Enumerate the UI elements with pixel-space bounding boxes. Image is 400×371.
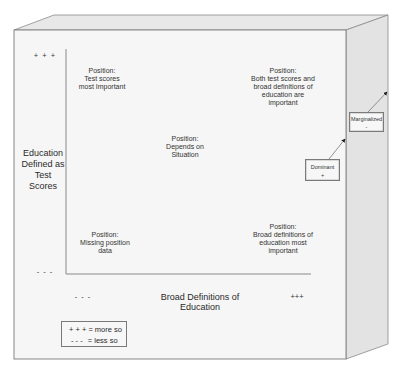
cube-side-face: [346, 15, 388, 359]
dominant-box: Dominant +: [305, 159, 340, 181]
position-line: Position:: [72, 67, 132, 75]
legend-symbol: - - -: [71, 336, 83, 345]
legend-item-less: - - - = less so: [62, 335, 126, 346]
legend-item-more: + + + = more so: [62, 324, 126, 335]
position-line: education most: [243, 239, 323, 247]
position-line: Position:: [75, 231, 135, 239]
y-axis-high-mark: + + +: [30, 52, 60, 61]
marginalized-box: Marginalized -: [349, 112, 384, 132]
position-top-left: Position: Test scores most Important: [72, 67, 132, 91]
legend-symbol: + + +: [69, 325, 86, 334]
position-line: Position:: [243, 67, 323, 75]
position-line: important: [243, 247, 323, 255]
position-line: Position:: [243, 223, 323, 231]
dominant-sign: +: [306, 172, 339, 180]
legend-text: = more so: [88, 325, 122, 334]
dominant-label: Dominant: [306, 164, 339, 172]
legend-text: = less so: [85, 336, 118, 345]
y-axis-title-line: Test: [20, 170, 66, 181]
marginalized-label: Marginalized: [350, 116, 383, 124]
position-line: Test scores: [72, 75, 132, 83]
position-line: Situation: [155, 151, 215, 159]
y-axis-title-line: Defined as: [20, 159, 66, 170]
position-line: important: [243, 99, 323, 107]
position-line: Depends on: [155, 143, 215, 151]
y-axis-title-line: Scores: [20, 181, 66, 192]
position-top-right: Position: Both test scores and broad def…: [243, 67, 323, 107]
position-line: most Important: [72, 83, 132, 91]
x-axis-high-mark: +++: [282, 293, 312, 302]
x-axis-low-mark: - - -: [68, 293, 98, 302]
position-line: broad definitions of: [243, 83, 323, 91]
cube-top-face: [14, 15, 388, 30]
position-bottom-right: Position: Broad definitions of education…: [243, 223, 323, 255]
position-line: Position:: [155, 135, 215, 143]
y-axis-low-mark: - - -: [30, 268, 60, 277]
position-line: Both test scores and: [243, 75, 323, 83]
x-axis-title: Broad Definitions of Education: [140, 292, 260, 313]
marginalized-sign: -: [350, 124, 383, 132]
position-line: Missing position: [75, 239, 135, 247]
position-line: education are: [243, 91, 323, 99]
y-axis-title-line: Education: [20, 148, 66, 159]
y-axis-title: Education Defined as Test Scores: [20, 148, 66, 192]
legend: + + + = more so - - - = less so: [61, 321, 127, 347]
position-line: data: [75, 247, 135, 255]
position-line: Broad definitions of: [243, 231, 323, 239]
position-center: Position: Depends on Situation: [155, 135, 215, 159]
position-bottom-left: Position: Missing position data: [75, 231, 135, 255]
